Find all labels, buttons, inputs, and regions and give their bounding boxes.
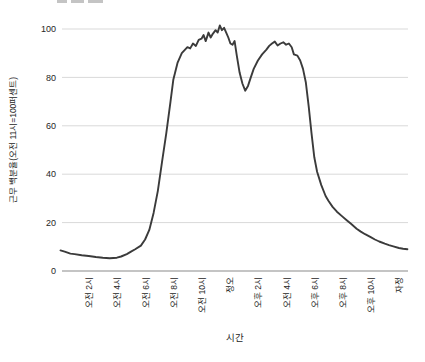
x-tick-label-22: 오후 10시 <box>366 277 376 313</box>
x-tick-label-14: 오후 2시 <box>253 277 263 308</box>
y-tick-label-100: 100 <box>41 24 56 34</box>
work-percentage-chart: 020406080100오전 2시오전 4시오전 6시오전 8시오전 10시정오… <box>0 0 425 362</box>
x-tick-label-6: 오전 6시 <box>141 277 151 308</box>
x-tick-label-10: 오전 10시 <box>197 277 207 313</box>
y-axis-title: 근무 백분율(오전 11시=100퍼센트) <box>8 77 18 204</box>
x-tick-label-12: 정오 <box>225 277 235 293</box>
y-tick-label-80: 80 <box>46 73 56 83</box>
x-axis-title: 시간 <box>226 332 244 343</box>
y-tick-label-60: 60 <box>46 121 56 131</box>
x-tick-label-20: 오후 8시 <box>338 277 348 308</box>
work-percentage-line <box>61 25 408 258</box>
y-tick-label-0: 0 <box>51 266 56 276</box>
artifact-mark <box>88 0 103 3</box>
x-tick-label-8: 오전 8시 <box>169 277 179 308</box>
artifact-mark <box>57 0 67 3</box>
x-tick-label-4: 오전 4시 <box>112 277 122 308</box>
y-tick-label-40: 40 <box>46 169 56 179</box>
y-tick-label-20: 20 <box>46 218 56 228</box>
x-tick-label-24: 자정 <box>394 277 404 293</box>
chart-page: 020406080100오전 2시오전 4시오전 6시오전 8시오전 10시정오… <box>0 0 425 362</box>
x-tick-label-18: 오후 6시 <box>310 277 320 308</box>
x-tick-label-2: 오전 2시 <box>84 277 94 308</box>
x-tick-label-16: 오전 4시 <box>282 277 292 308</box>
artifact-mark <box>71 0 84 3</box>
